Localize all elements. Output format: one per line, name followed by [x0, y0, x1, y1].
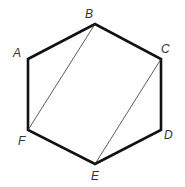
hexagon-outline — [28, 24, 161, 164]
vertex-label-c: C — [161, 42, 170, 56]
hexagon-diagram: A B C D E F — [0, 0, 185, 187]
vertex-label-a: A — [12, 46, 21, 60]
vertex-label-f: F — [18, 134, 26, 148]
vertex-label-b: B — [85, 7, 93, 21]
diagonal-bf — [28, 24, 95, 130]
vertex-label-e: E — [91, 169, 100, 183]
vertex-label-d: D — [164, 128, 173, 142]
